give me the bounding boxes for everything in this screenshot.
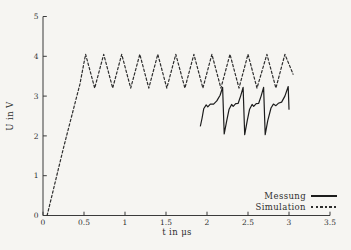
solid-line-sample-icon [311,195,337,196]
x-axis-title: t in μs [120,227,234,237]
y-tick-label: 3 [34,92,39,101]
x-tick-label: 1 [123,218,128,227]
figure: 00.511.522.533.5012345 t in μs U in V Me… [0,0,351,250]
x-tick-label: 1.5 [160,218,172,227]
y-tick-label: 2 [34,132,39,141]
x-tick-label: 3 [287,218,292,227]
x-tick-label: 0 [41,218,46,227]
legend-entry-simulation: Simulation [236,202,337,212]
x-tick-label: 3.5 [324,218,336,227]
series-line-messung [200,87,289,135]
legend: Messung Simulation [236,191,337,212]
legend-entry-messung: Messung [236,191,337,201]
y-tick-label: 4 [34,52,39,61]
x-tick-label: 2 [205,218,210,227]
y-tick-label: 5 [34,12,39,21]
legend-label-messung: Messung [264,191,306,201]
y-tick-label: 0 [34,211,39,220]
chart-canvas: 00.511.522.533.5012345 [0,0,351,250]
legend-label-simulation: Simulation [255,202,306,212]
x-tick-label: 0.5 [78,218,90,227]
dashed-line-sample-icon [311,206,337,207]
y-tick-label: 1 [34,171,39,180]
x-tick-label: 2.5 [242,218,254,227]
axis-frame [43,17,330,216]
y-axis-title: U in V [5,86,17,146]
